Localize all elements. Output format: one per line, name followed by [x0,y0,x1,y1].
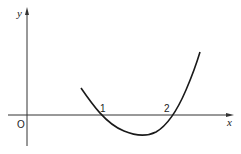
root-label-2: 2 [164,103,170,114]
root-label-1: 1 [100,103,106,114]
y-axis-arrow-icon [25,7,29,15]
function-curve [81,52,200,135]
origin-label: O [17,119,25,130]
y-axis-label: y [16,7,22,19]
graph: y x O 1 2 [0,0,241,154]
x-axis-label: x [226,116,232,128]
